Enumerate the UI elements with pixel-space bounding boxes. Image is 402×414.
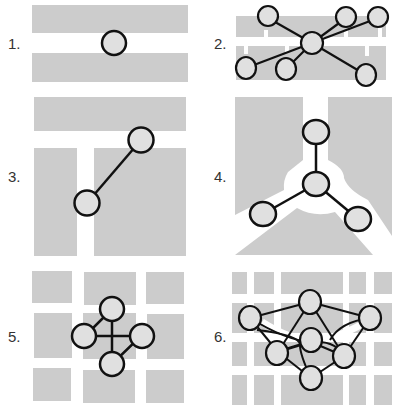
node	[336, 7, 356, 27]
node	[129, 128, 154, 153]
node	[250, 202, 276, 226]
panel-3	[34, 97, 186, 256]
panel-5	[32, 271, 184, 403]
panel-label-4: 4.	[214, 168, 227, 185]
node	[266, 341, 288, 365]
node	[75, 191, 100, 216]
node	[236, 57, 256, 79]
node	[100, 352, 124, 376]
panel-4	[235, 97, 392, 255]
node	[299, 290, 321, 314]
block	[32, 53, 188, 82]
node	[359, 306, 381, 330]
node	[102, 31, 126, 55]
panel-label-6: 6.	[214, 328, 227, 345]
node	[300, 366, 322, 390]
center-node	[303, 172, 329, 196]
node	[276, 58, 296, 80]
block	[32, 5, 188, 33]
block	[34, 97, 186, 131]
hub-node	[301, 32, 323, 54]
node	[239, 306, 261, 330]
node	[300, 328, 322, 352]
panel-label-2: 2.	[214, 35, 227, 52]
panel-label-1: 1.	[8, 35, 21, 52]
node	[356, 64, 376, 86]
node	[130, 324, 154, 348]
panel-6	[232, 272, 392, 405]
block	[34, 148, 77, 256]
block	[94, 148, 186, 256]
panel-2	[236, 6, 388, 86]
node	[100, 297, 124, 321]
node	[258, 6, 278, 26]
node	[333, 344, 355, 368]
diagram-canvas	[0, 0, 402, 414]
panel-label-5: 5.	[8, 328, 21, 345]
panel-label-3: 3.	[8, 168, 21, 185]
node	[368, 7, 388, 27]
node	[345, 207, 371, 231]
node	[72, 324, 96, 348]
panel-1	[32, 5, 188, 82]
node	[303, 120, 329, 144]
